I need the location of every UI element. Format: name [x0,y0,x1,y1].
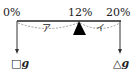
left-weight: □g [11,58,29,70]
right-weight-unit: g [121,57,129,70]
left-weight-unit: g [21,57,29,70]
fulcrum-triangle-icon [73,21,86,35]
square-symbol-icon: □ [11,57,21,70]
fulcrum-concentration-label: 12% [68,7,92,18]
right-weight: △g [113,58,129,70]
segment-b-label: イ [96,24,105,33]
segment-a-label: ア [42,24,51,33]
right-arrow-icon [118,49,122,54]
left-arrow-icon [15,49,19,54]
left-concentration-label: 0% [3,7,20,18]
right-concentration-label: 20% [106,7,130,18]
